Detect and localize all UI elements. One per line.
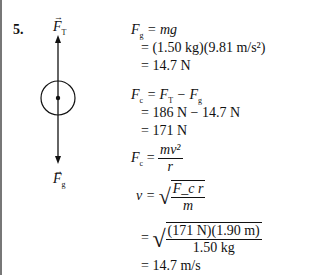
- tension-force-label: FT: [53, 19, 66, 37]
- gravity-force-label: Fg: [53, 171, 66, 189]
- velocity-result: = 14.7 m/s: [141, 258, 201, 274]
- fc-result: = 171 N: [141, 123, 187, 139]
- fg-substitution: = (1.50 kg)(9.81 m/s²): [141, 40, 265, 56]
- fc-substitution: = 186 N − 14.7 N: [141, 105, 240, 121]
- centripetal-force-formula: Fc = mv²r: [131, 142, 183, 175]
- velocity-substitution: = √(171 N)(1.90 m)1.50 kg: [141, 222, 262, 256]
- velocity-formula: v = √F_c rm: [136, 180, 205, 214]
- fg-result: = 14.7 N: [141, 58, 191, 74]
